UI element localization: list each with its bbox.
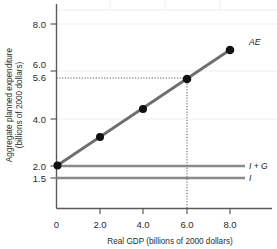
x-axis-title: Real GDP (billions of 2000 dollars) — [107, 237, 233, 246]
x-tick-label-6: 6.0 — [180, 219, 193, 230]
data-point-ae-4 — [226, 46, 235, 55]
y-tick-label-8: 8.0 — [33, 19, 46, 30]
chart-container: 8.0 6.0 5.6 4.0 2.0 1.5 0 2.0 4.0 6.0 8.… — [0, 0, 277, 249]
ae-expenditure-chart: 8.0 6.0 5.6 4.0 2.0 1.5 0 2.0 4.0 6.0 8.… — [0, 0, 277, 249]
y-tick-label-6: 6.0 — [33, 59, 46, 70]
y-tick-label-1-5: 1.5 — [33, 173, 46, 184]
x-tick-label-4: 4.0 — [136, 219, 149, 230]
series-label-i-plus-g: I + G — [249, 161, 268, 171]
x-tick-label-2: 2.0 — [93, 219, 106, 230]
y-tick-label-5-6: 5.6 — [33, 72, 46, 83]
x-tick-label-8: 8.0 — [223, 219, 236, 230]
data-point-ae-0 — [54, 162, 62, 170]
data-point-ae-3 — [183, 75, 192, 84]
series-label-ae: AE — [248, 37, 261, 47]
x-tick-label-0: 0 — [54, 219, 59, 230]
y-tick-label-4: 4.0 — [33, 114, 46, 125]
y-axis-title-line2: (billions of 2000 dollars) — [15, 61, 24, 148]
data-point-ae-1 — [96, 133, 104, 141]
y-axis-title-line1: Aggregate planned expenditure — [5, 47, 14, 162]
data-point-ae-2 — [139, 105, 147, 113]
y-tick-label-2: 2.0 — [33, 161, 46, 172]
chart-background — [0, 0, 277, 249]
